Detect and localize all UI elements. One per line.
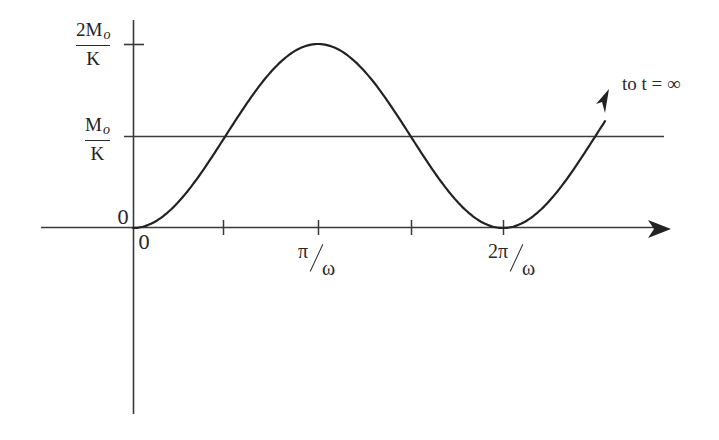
y-label-2mo-k-numerator: 2M [76, 19, 102, 40]
y-label-mo-k: Mo K [85, 115, 110, 163]
x-label-origin: 0 [138, 233, 150, 252]
y-label-mo-k-numerator: M [85, 114, 102, 135]
x-label-omega: ω [322, 257, 335, 280]
y-label-2mo-k-subscript: o [103, 27, 110, 42]
y-label-mo-k-subscript: o [103, 122, 110, 137]
x-label-two-pi: 2π [488, 240, 508, 263]
y-label-2mo-k-denominator: K [86, 49, 100, 68]
x-label-omega-2: ω [522, 257, 535, 280]
curve-arrowhead-icon [596, 89, 609, 113]
y-label-2mo-k: 2Mo K [76, 20, 110, 68]
y-label-origin: 0 [117, 208, 129, 227]
fraction-bar [85, 140, 110, 141]
to-infinity-annotation: to t = ∞ [622, 74, 681, 93]
x-axis-arrowhead-icon [648, 220, 671, 238]
y-label-mo-k-denominator: K [91, 144, 105, 163]
fraction-bar [76, 45, 110, 46]
x-label-pi: π [298, 240, 308, 263]
